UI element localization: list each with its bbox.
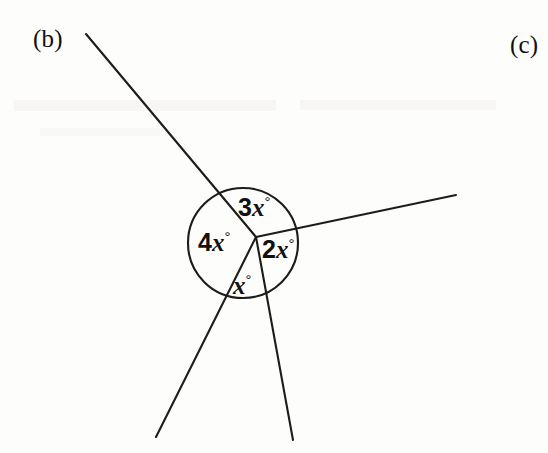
angle-label-2x: 2x° bbox=[262, 236, 294, 262]
degree-icon: ° bbox=[224, 228, 230, 245]
angle-label-4x: 4x° bbox=[198, 229, 230, 255]
angle-label-x: x° bbox=[233, 272, 252, 298]
angle-4x-variable: x bbox=[212, 229, 225, 256]
angle-diagram bbox=[0, 0, 548, 453]
ray-right bbox=[256, 195, 456, 237]
ray-lower-right bbox=[256, 237, 293, 440]
angle-2x-variable: x bbox=[276, 236, 289, 263]
ray-lower-left bbox=[156, 237, 256, 437]
ray-upper-left bbox=[86, 34, 256, 237]
angle-x-variable: x bbox=[233, 272, 246, 299]
figure-root: (b) (c) 3x° 4x° 2x° x° bbox=[0, 0, 548, 453]
angle-3x-variable: x bbox=[252, 194, 265, 221]
degree-icon: ° bbox=[264, 193, 270, 210]
angle-3x-coefficient: 3 bbox=[238, 193, 252, 221]
degree-icon: ° bbox=[288, 235, 294, 252]
degree-icon: ° bbox=[246, 271, 252, 288]
angle-label-3x: 3x° bbox=[238, 194, 270, 220]
angle-2x-coefficient: 2 bbox=[262, 235, 276, 263]
angle-4x-coefficient: 4 bbox=[198, 228, 212, 256]
